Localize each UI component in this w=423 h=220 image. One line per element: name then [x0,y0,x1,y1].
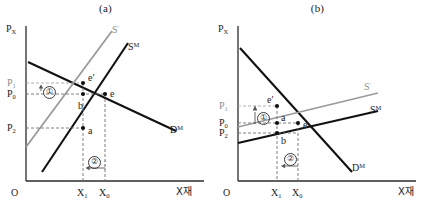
x-axis-label: X재 [176,187,192,197]
curve-label-S-prime: S′ [364,82,371,93]
tick-P1-sub: 1 [13,82,16,89]
point-label-e: e [303,120,307,130]
tick-P0-sub: 0 [13,93,16,100]
point-label-b: b [78,101,83,111]
tick-P0: P0 [7,89,16,100]
tick-X0: X0 [99,188,109,199]
curve-label-S-prime-base: S [112,24,118,35]
tick-P2-base: P [219,127,225,138]
x-axis-label: X재 [398,187,414,197]
y-axis-label-base: P [6,23,12,34]
curve-label-DM-sup: M [177,124,183,131]
curve-label-SM-base: S [370,104,376,115]
annotation-1-badge: ① [257,112,270,125]
point-e-dot [103,92,107,96]
point-label-e-prime: e′ [88,73,95,83]
tick-P2: P2 [219,128,228,139]
curve-label-DM-sup: M [359,162,365,169]
point-label-e: e [110,89,114,99]
point-a-dot [275,121,279,125]
tick-P1: P1 [219,101,228,112]
tick-X1-sub: 1 [278,192,281,199]
annotation-1-arrowhead [39,85,44,89]
origin-label: O [223,188,230,198]
annotation-2-arrowhead [281,164,285,168]
tick-X0-sub: 0 [299,192,302,199]
tick-P2-sub: 2 [13,127,16,134]
panel-a: (a) [0,0,211,220]
curve-label-S-prime: S′ [112,25,119,36]
annotation-2-badge: ② [88,156,101,169]
tick-P0-base: P [7,88,13,99]
tick-X1: X1 [77,188,87,199]
tick-X0: X0 [292,188,302,199]
point-e-prime-dot [81,81,85,85]
annotation-2-badge: ② [284,153,297,166]
point-e-dot [296,121,300,125]
tick-P1-base: P [219,100,225,111]
y-axis-label-base: P [218,23,224,34]
curve-label-SM-sup: M [134,41,140,48]
curve-label-S-prime-base: S [364,81,370,92]
panel-b: (b) [212,0,423,220]
point-label-b: b [281,136,286,146]
point-b-dot [81,92,85,96]
curve-label-SM-sup: M [376,104,382,111]
curve-label-DM: DM [352,163,365,174]
curve-label-SM: SM [128,42,139,53]
point-label-a: a [281,113,285,123]
y-axis-label: PX [6,24,16,35]
point-a-dot [81,126,85,130]
curve-label-S-prime-sup: ′ [370,81,371,88]
tick-P1-base: P [7,77,13,88]
tick-P2-base: P [7,122,13,133]
y-axis-label-sub: X [224,28,229,35]
annotation-1-badge: ① [43,86,56,99]
panel-b-plot [212,0,423,220]
tick-P1-sub: 1 [225,105,228,112]
point-b-dot [275,131,279,135]
tick-X1: X1 [271,188,281,199]
curve-label-S-prime-sup: ′ [118,24,119,31]
supply-curve-S-prime [26,31,112,147]
tick-X1-sub: 1 [84,192,87,199]
point-label-e-prime: e′ [267,95,274,105]
tick-P2-sub: 2 [225,132,228,139]
y-axis-label: PX [218,24,228,35]
figure-canvas: (a) [0,0,423,220]
curve-label-SM: SM [370,105,381,116]
y-axis-label-sub: X [12,28,17,35]
origin-label: O [11,188,18,198]
tick-P2: P2 [7,123,16,134]
curve-label-SM-base: S [128,41,134,52]
curve-label-DM: DM [170,125,183,136]
tick-X0-sub: 0 [106,192,109,199]
point-label-a: a [88,126,92,136]
point-e-prime-dot [275,104,279,108]
